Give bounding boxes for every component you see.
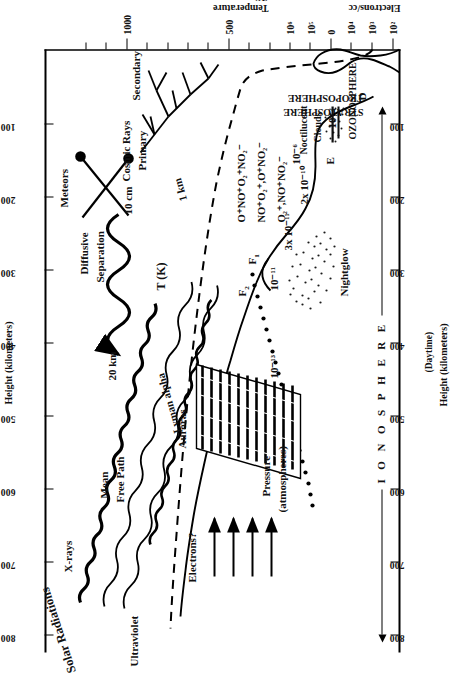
layer-label-E: E: [324, 157, 335, 164]
layer-label-F2: F2: [236, 286, 250, 296]
diffusive-text-2: Separation: [93, 231, 105, 282]
temp-minor-1: [371, 42, 372, 49]
annotation-x-rays: X-rays: [62, 540, 73, 572]
temp-axis-tick-1000: 1000: [122, 14, 132, 34]
electron-axis-tick-4: 10⁴: [346, 21, 356, 34]
annotation-cosmic-primary: Primary: [136, 130, 147, 170]
temp-tick-500: [228, 38, 229, 49]
annotation-cosmic-rays: Cosmic Rays: [120, 120, 131, 181]
annotation-meteors: Meteors: [58, 169, 69, 207]
annotation-noctilucent-line2: Clouds: [312, 112, 322, 142]
nightglow-stipple: [288, 231, 335, 309]
temp-minor-9: [167, 42, 168, 49]
ion-composition-2: NO⁺O₂⁺,O⁺NO₂⁻: [256, 141, 267, 222]
mean-free-path-title-1: Mean: [98, 471, 109, 498]
mean-free-path-value-10cm: 10 cm: [122, 186, 133, 214]
annotation-nightglow: Nightglow: [338, 248, 349, 296]
pressure-title-2: (atmospheres): [276, 446, 287, 512]
temp-tick-1000: [126, 38, 127, 49]
temperature-axis-title: Temperature (K): [212, 0, 268, 13]
annotation-cosmic-secondary: Secondary: [130, 51, 141, 101]
pressure-value-5: 10⁻⁶: [290, 144, 301, 164]
electron-axis-tick-5: 10⁵: [306, 21, 316, 34]
temp-minor-12: [85, 42, 86, 49]
ion-composition-3: O₂⁺,NO⁺NO₂⁻: [276, 155, 287, 222]
diffusive-text-1: Diffusive: [77, 232, 89, 274]
temp-minor-3: [309, 42, 310, 49]
temp-minor-5: [269, 42, 270, 49]
temp-axis-tick-500: 500: [224, 19, 234, 34]
temp-axis-tick-0: 0: [326, 29, 336, 34]
figure-stage: 800 700 600 500 400 300 200 100 Height (…: [0, 0, 457, 694]
temp-minor-10: [146, 42, 147, 49]
electron-tick-1: [392, 38, 393, 49]
ion-composition-1: O⁺NO⁺O₂⁺NO₂⁻: [236, 144, 247, 222]
layer-label-D: D: [356, 92, 367, 100]
electron-axis-title: Electrons/cc: [348, 2, 400, 13]
temp-minor-4: [289, 42, 290, 49]
layer-F2-sub: 2: [242, 286, 250, 290]
temp-tick-0: [330, 38, 331, 49]
temp-minor-11: [105, 42, 106, 49]
noctilucent-text-2: Clouds: [311, 112, 322, 142]
mean-free-path-title-2: Free Path: [114, 456, 125, 502]
figure-canvas: 800 700 600 500 400 300 200 100 Height (…: [0, 0, 457, 694]
pressure-title-1: Pressure: [260, 455, 271, 496]
electron-axis-tick-6: 10⁶: [285, 21, 295, 34]
layer-label-F1: F1: [246, 254, 260, 264]
temperature-axis-line: [44, 49, 400, 51]
pressure-value-3: 3x 10⁻¹¹: [282, 213, 293, 250]
mean-free-path-value-20km: 20 km: [106, 351, 117, 380]
electron-axis-tick-3: 10³: [367, 21, 377, 34]
layer-F1-sub: 1: [252, 254, 260, 258]
annotation-diffusive-separation-line2: Separation: [94, 231, 105, 282]
figure-artwork: [0, 0, 457, 694]
temp-minor-7: [207, 42, 208, 49]
electron-beam-arrows: [214, 518, 271, 576]
annotation-auroras: Auroras: [176, 409, 187, 448]
annotation-diffusive-separation-line1: Diffusive: [78, 232, 89, 274]
pressure-value-6: 10⁻²: [326, 108, 337, 128]
temp-minor-8: [187, 42, 188, 49]
electron-axis-tick-2: 10²: [388, 21, 398, 34]
temp-minor-6: [248, 42, 249, 49]
temperature-curve-lower: [313, 49, 399, 73]
cosmic-ray-shower: [140, 62, 218, 152]
diffusive-separation-wave: [107, 214, 129, 354]
pressure-value-2: 10⁻¹¹: [268, 266, 279, 290]
pressure-value-4: 2x 10⁻¹⁰: [298, 166, 309, 204]
annotation-ultraviolet: Ultraviolet: [128, 615, 139, 666]
annotation-electrons-question: Electrons?: [186, 532, 197, 582]
temperature-curve-label: T (K): [154, 262, 166, 290]
temp-minor-2: [350, 42, 351, 49]
pressure-value-1: 10⁻¹³: [268, 354, 279, 378]
